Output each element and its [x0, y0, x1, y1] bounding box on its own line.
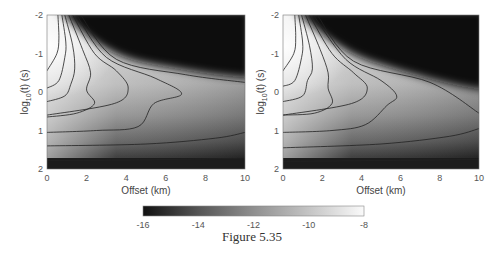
x-tick-label: 0	[280, 173, 285, 183]
y-tick-label: 0	[274, 87, 279, 97]
colorbar: -16-14-12-10-8	[136, 206, 368, 230]
x-tick-label: 2	[84, 173, 89, 183]
figure-caption: Figure 5.35	[0, 229, 504, 245]
y-tick-label: -1	[271, 49, 279, 59]
x-tick-label: 4	[359, 173, 364, 183]
x-tick-label: 10	[240, 173, 250, 183]
right-panel: -2-1012 0246810 Offset (km) log10(t) (s)	[255, 10, 486, 196]
left-x-ticks: 0246810	[44, 173, 250, 183]
y-tick-label: -2	[35, 10, 43, 20]
y-tick-label: 2	[38, 164, 43, 174]
right-x-ticks: 0246810	[280, 173, 484, 183]
right-heatmap	[276, 10, 486, 172]
y-tick-label: -1	[35, 49, 43, 59]
left-ylabel: log10(t) (s)	[19, 69, 32, 114]
left-y-ticks: -2-1012	[35, 10, 43, 174]
right-ylabel: log10(t) (s)	[255, 69, 268, 114]
x-tick-label: 10	[474, 173, 484, 183]
y-tick-label: 1	[274, 126, 279, 136]
left-xlabel: Offset (km)	[121, 185, 170, 196]
right-xlabel: Offset (km)	[356, 185, 405, 196]
x-tick-label: 8	[203, 173, 208, 183]
x-tick-label: 8	[437, 173, 442, 183]
x-tick-label: 2	[320, 173, 325, 183]
x-tick-label: 4	[124, 173, 129, 183]
x-tick-label: 6	[398, 173, 403, 183]
colorbar-gradient	[143, 206, 364, 216]
x-tick-label: 0	[44, 173, 49, 183]
y-tick-label: 0	[38, 87, 43, 97]
y-tick-label: -2	[271, 10, 279, 20]
figure: -2-1012 0246810 Offset (km) log10(t) (s)…	[0, 0, 504, 253]
y-tick-label: 2	[274, 164, 279, 174]
y-tick-label: 1	[38, 126, 43, 136]
x-tick-label: 6	[163, 173, 168, 183]
right-y-ticks: -2-1012	[271, 10, 279, 174]
left-heatmap	[40, 10, 250, 172]
left-panel: -2-1012 0246810 Offset (km) log10(t) (s)	[19, 10, 250, 196]
